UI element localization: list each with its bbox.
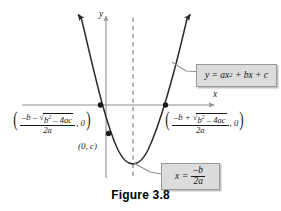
equation-lhs: y [205,71,209,81]
y-intercept-label: (0, c) [78,142,97,151]
root-left-open-paren: ( [12,112,19,127]
vertex-lhs: x [175,172,179,182]
vertex-fraction: –b2a [191,166,205,187]
root-right-denominator: 2a [194,126,207,135]
root-right-radical: √b2 – 4ac [193,113,227,125]
x-axis-label: x [213,90,217,100]
root-left-radicand: b2 – 4ac [43,113,73,125]
equation-term-a: ax [220,71,229,81]
equation-plus-1: + [235,71,241,81]
parabola-curve [82,19,188,164]
root-right-open-paren: ( [164,112,171,127]
parabola-left-arrow-icon [78,15,81,20]
root-left-radicand-rest: – 4ac [53,115,72,125]
axis-of-symmetry-callout-box: x = –b2a [161,163,220,190]
equation-equals: = [212,71,218,81]
parabola-graph [0,0,281,211]
equation-exponent: 2 [229,72,232,78]
point-y-intercept [106,131,111,136]
root-left-radicand-power: 2 [48,114,51,120]
root-right-radicand: b2 – 4ac [196,113,226,125]
root-left-denominator: 2a [41,126,54,135]
parabola-right-arrow-icon [187,15,190,20]
root-left-fraction: –b – √b2 – 4ac2a [20,113,75,135]
root-right-comma-zero: , 0 [230,118,239,128]
root-right-radicand-rest: – 4ac [207,115,226,125]
y-axis-label: y [99,10,103,20]
root-left-comma-zero: , 0 [76,118,85,128]
figure-caption: Figure 3.8 [0,188,281,202]
root-right-fraction: –b + √b2 – 4ac2a [172,113,229,135]
root-left-label: ( –b – √b2 – 4ac2a, 0 ) [12,112,92,135]
vertex-denominator: 2a [191,177,205,187]
root-left-radical: √b2 – 4ac [39,113,73,125]
root-left-num-prefix: –b – [22,112,37,122]
equation-term-c: c [264,71,268,81]
root-right-num-prefix: –b + [174,112,191,122]
equation-term-b: bx [244,71,253,81]
leader-line-axis-of-symmetry-callout [134,163,161,174]
root-left-close-paren: ) [85,112,92,127]
equation-plus-2: + [255,71,261,81]
equation-callout-box: y = ax2 + bx + c [196,64,277,87]
root-right-radicand-power: 2 [202,114,205,120]
root-right-close-paren: ) [238,112,245,127]
vertex-equals: = [182,172,188,182]
point-root-left [98,102,103,107]
figure-container: y x (0, c) ( –b – √b2 – 4ac2a, 0 ) ( –b … [0,0,281,211]
root-right-label: ( –b + √b2 – 4ac2a, 0 ) [164,112,245,135]
